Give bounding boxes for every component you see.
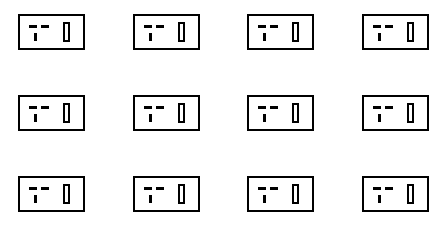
outlet-tall-slot-rectangle-icon	[407, 103, 414, 123]
outlet-outer-rectangle	[133, 14, 200, 50]
outlet-ground-pin-bar-icon	[263, 114, 266, 122]
outlet-left-slot-bar-icon	[373, 106, 381, 109]
outlet-icon	[18, 14, 85, 50]
outlet-left-slot-bar-icon	[258, 25, 266, 28]
outlet-left-slot-bar-icon	[29, 25, 37, 28]
outlet-icon	[247, 14, 314, 50]
outlet-tall-slot-rectangle-icon	[292, 103, 299, 123]
outlet-icon	[247, 176, 314, 212]
outlet-right-slot-bar-icon	[385, 187, 393, 190]
outlet-ground-pin-bar-icon	[34, 114, 37, 122]
outlet-right-slot-bar-icon	[270, 187, 278, 190]
outlet-left-slot-bar-icon	[373, 187, 381, 190]
outlet-left-slot-bar-icon	[144, 106, 152, 109]
outlet-tall-slot-rectangle-icon	[178, 103, 185, 123]
outlet-icon	[133, 176, 200, 212]
outlet-tall-slot-rectangle-icon	[178, 184, 185, 204]
outlet-outer-rectangle	[362, 176, 429, 212]
outlet-right-slot-bar-icon	[41, 187, 49, 190]
outlet-outer-rectangle	[247, 176, 314, 212]
outlet-right-slot-bar-icon	[270, 25, 278, 28]
outlet-tall-slot-rectangle-icon	[178, 22, 185, 42]
outlet-ground-pin-bar-icon	[378, 114, 381, 122]
outlet-outer-rectangle	[18, 95, 85, 131]
outlet-right-slot-bar-icon	[270, 106, 278, 109]
outlet-icon	[362, 95, 429, 131]
outlet-left-slot-bar-icon	[373, 25, 381, 28]
outlet-right-slot-bar-icon	[41, 25, 49, 28]
outlet-tall-slot-rectangle-icon	[63, 103, 70, 123]
outlet-icon	[362, 14, 429, 50]
outlet-tall-slot-rectangle-icon	[407, 22, 414, 42]
outlet-outer-rectangle	[362, 95, 429, 131]
outlet-right-slot-bar-icon	[156, 106, 164, 109]
outlet-outer-rectangle	[18, 14, 85, 50]
outlet-icon	[133, 95, 200, 131]
outlet-right-slot-bar-icon	[385, 25, 393, 28]
outlet-ground-pin-bar-icon	[149, 33, 152, 41]
outlet-ground-pin-bar-icon	[149, 114, 152, 122]
outlet-outer-rectangle	[247, 95, 314, 131]
outlet-ground-pin-bar-icon	[378, 195, 381, 203]
outlet-icon	[18, 95, 85, 131]
outlet-right-slot-bar-icon	[385, 106, 393, 109]
outlet-left-slot-bar-icon	[144, 187, 152, 190]
outlet-tall-slot-rectangle-icon	[292, 184, 299, 204]
outlet-icon-grid	[0, 0, 445, 231]
outlet-tall-slot-rectangle-icon	[292, 22, 299, 42]
outlet-ground-pin-bar-icon	[34, 195, 37, 203]
outlet-icon	[133, 14, 200, 50]
outlet-outer-rectangle	[247, 14, 314, 50]
outlet-tall-slot-rectangle-icon	[63, 22, 70, 42]
outlet-left-slot-bar-icon	[29, 187, 37, 190]
outlet-left-slot-bar-icon	[258, 187, 266, 190]
outlet-ground-pin-bar-icon	[263, 33, 266, 41]
outlet-icon	[247, 95, 314, 131]
outlet-right-slot-bar-icon	[156, 187, 164, 190]
outlet-outer-rectangle	[133, 176, 200, 212]
outlet-tall-slot-rectangle-icon	[63, 184, 70, 204]
outlet-ground-pin-bar-icon	[34, 33, 37, 41]
outlet-ground-pin-bar-icon	[149, 195, 152, 203]
outlet-icon	[362, 176, 429, 212]
outlet-outer-rectangle	[18, 176, 85, 212]
outlet-ground-pin-bar-icon	[263, 195, 266, 203]
outlet-icon	[18, 176, 85, 212]
outlet-left-slot-bar-icon	[144, 25, 152, 28]
outlet-right-slot-bar-icon	[156, 25, 164, 28]
outlet-tall-slot-rectangle-icon	[407, 184, 414, 204]
outlet-outer-rectangle	[133, 95, 200, 131]
outlet-left-slot-bar-icon	[258, 106, 266, 109]
outlet-right-slot-bar-icon	[41, 106, 49, 109]
outlet-outer-rectangle	[362, 14, 429, 50]
outlet-ground-pin-bar-icon	[378, 33, 381, 41]
outlet-left-slot-bar-icon	[29, 106, 37, 109]
